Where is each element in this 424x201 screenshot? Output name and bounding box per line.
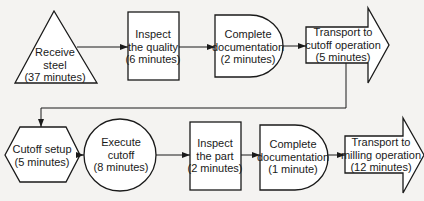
transport-milling-label: Transport to milling operation (12 minut… [341,136,421,174]
label-line: the quality [125,41,180,54]
documentation-1-label: Complete documentation (2 minutes) [212,28,284,66]
label-line: cutoff [93,149,148,162]
label-line: Transport to [341,136,421,149]
cutoff-setup-label: Cutoff setup (5 minutes) [12,143,71,168]
label-line: (2 minutes) [212,53,284,66]
inspect-quality-label: Inspect the quality (6 minutes) [125,28,180,66]
label-line: steel [24,59,85,72]
label-line: (5 minutes) [12,155,71,168]
label-line: (37 minutes) [24,71,85,84]
inspect-part-label: Inspect the part (2 minutes) [187,137,242,175]
label-line: Transport to [305,26,381,39]
label-line: Cutoff setup [12,143,71,156]
documentation-2-label: Complete documentation (1 minute) [257,138,329,176]
label-line: (12 minutes) [341,161,421,174]
process-flow-diagram: Receive steel (37 minutes) Inspect the q… [0,0,424,201]
label-line: Complete [257,138,329,151]
label-line: (6 minutes) [125,53,180,66]
receive-steel-label: Receive steel (37 minutes) [24,46,85,84]
label-line: Execute [93,136,148,149]
label-line: Complete [212,28,284,41]
transport-cutoff-label: Transport to cutoff operation (5 minutes… [305,26,381,64]
label-line: documentation [212,41,284,54]
label-line: documentation [257,151,329,164]
label-line: Inspect [187,137,242,150]
label-line: the part [187,150,242,163]
execute-cutoff-label: Execute cutoff (8 minutes) [93,136,148,174]
label-line: (2 minutes) [187,162,242,175]
label-line: (5 minutes) [305,51,381,64]
label-line: milling operation [341,149,421,162]
label-line: Receive [24,46,85,59]
label-line: (8 minutes) [93,161,148,174]
label-line: (1 minute) [257,163,329,176]
label-line: cutoff operation [305,39,381,52]
label-line: Inspect [125,28,180,41]
